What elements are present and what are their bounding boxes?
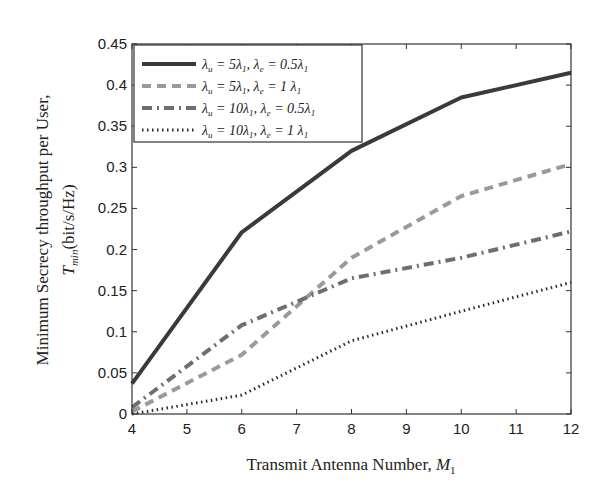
y-tick-label: 0.3 bbox=[106, 158, 127, 175]
y-tick-label: 0.25 bbox=[98, 199, 127, 216]
y-tick-label: 0.4 bbox=[106, 76, 127, 93]
y-tick-label: 0 bbox=[119, 405, 127, 422]
y-tick-label: 0.35 bbox=[98, 117, 127, 134]
legend-label: λu = 10λ1, λe = 0.5λ1 bbox=[201, 101, 315, 118]
line-chart: 45678910111200.050.10.150.20.250.30.350.… bbox=[0, 0, 607, 491]
x-axis-title: Transmit Antenna Number, M1 bbox=[246, 455, 455, 476]
legend-label: λu = 5λ1, λe = 1 λ1 bbox=[201, 79, 301, 96]
y-tick-label: 0.05 bbox=[98, 364, 127, 381]
x-tick-label: 5 bbox=[183, 420, 191, 437]
legend-label: λu = 10λ1, λe = 1 λ1 bbox=[201, 123, 308, 140]
y-tick-label: 0.15 bbox=[98, 282, 127, 299]
y-tick-label: 0.2 bbox=[106, 241, 127, 258]
legend-label: λu = 5λ1, λe = 0.5λ1 bbox=[201, 57, 308, 74]
x-tick-label: 12 bbox=[563, 420, 580, 437]
x-tick-label: 4 bbox=[128, 420, 136, 437]
x-tick-label: 10 bbox=[453, 420, 470, 437]
y-tick-label: 0.1 bbox=[106, 323, 127, 340]
x-tick-label: 8 bbox=[347, 420, 355, 437]
x-tick-label: 7 bbox=[292, 420, 300, 437]
y-axis-title-line1: Minimum Secrecy throughput per User, bbox=[33, 95, 52, 366]
y-tick-label: 0.45 bbox=[98, 35, 127, 52]
x-tick-label: 6 bbox=[238, 420, 246, 437]
x-tick-label: 11 bbox=[508, 420, 524, 437]
legend: λu = 5λ1, λe = 0.5λ1λu = 5λ1, λe = 1 λ1λ… bbox=[134, 45, 362, 142]
x-tick-label: 9 bbox=[402, 420, 410, 437]
